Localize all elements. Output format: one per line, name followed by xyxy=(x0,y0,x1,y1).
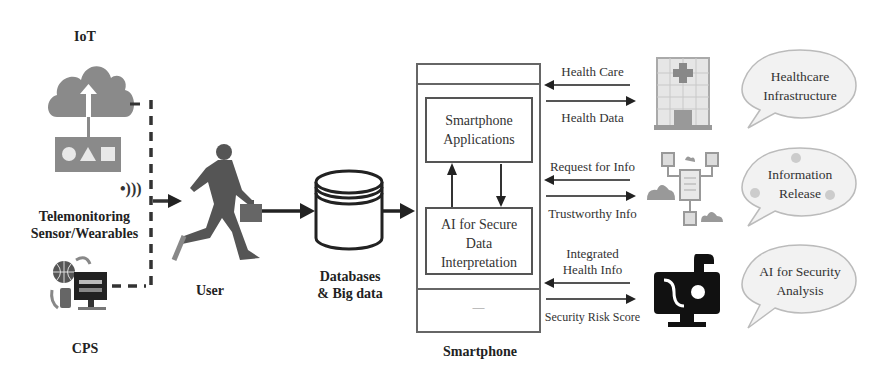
bubble-information-release: Information Release xyxy=(745,165,855,203)
bubble-ai-security-analysis: AI for Security Analysis xyxy=(745,262,855,300)
speech-bubbles xyxy=(0,0,875,369)
bubble-healthcare-infrastructure: Healthcare Infrastructure xyxy=(745,67,855,105)
